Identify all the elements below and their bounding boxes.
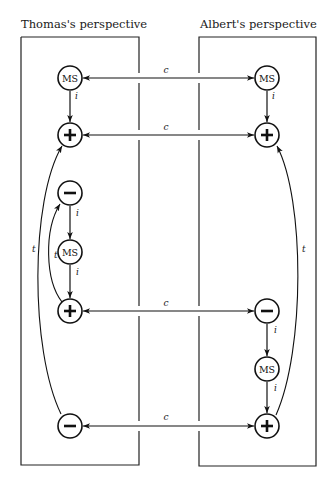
c-label-1: c bbox=[163, 65, 168, 75]
i-label-R4: i bbox=[274, 383, 277, 393]
i-label-R1: i bbox=[272, 91, 275, 101]
i-label-L1: i bbox=[75, 91, 78, 101]
t-edge-R5-R2 bbox=[276, 146, 298, 415]
node-R1-label: MS bbox=[259, 73, 275, 84]
t-label-R5-R2: t bbox=[302, 244, 306, 254]
node-L4-label: MS bbox=[62, 247, 78, 258]
albert-panel-frame bbox=[199, 37, 316, 466]
spacetime-diagram: c c c c i i i i i i t t t MS bbox=[0, 0, 334, 489]
c-label-3: c bbox=[163, 298, 168, 308]
internal-edges bbox=[70, 91, 267, 413]
i-label-L4: i bbox=[76, 267, 79, 277]
t-label-L6-L2: t bbox=[32, 244, 36, 254]
node-R4-label: MS bbox=[259, 364, 275, 375]
node-L1-label: MS bbox=[62, 73, 78, 84]
i-label-R3: i bbox=[274, 325, 277, 335]
c-label-4: c bbox=[163, 412, 168, 422]
i-label-L3: i bbox=[76, 208, 79, 218]
t-edge-L6-L2 bbox=[38, 146, 62, 414]
c-label-2: c bbox=[163, 122, 168, 132]
